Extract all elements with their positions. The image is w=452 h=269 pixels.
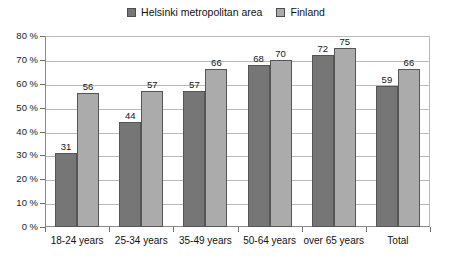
y-axis: 0 %10 %20 %30 %40 %50 %60 %70 %80 % [0, 36, 45, 228]
y-axis-tick-label: 10 % [16, 198, 38, 208]
x-axis-tick-label: Total [387, 235, 408, 247]
y-axis-tick-label: 50 % [16, 103, 38, 113]
y-axis-tick-label: 70 % [16, 55, 38, 65]
y-axis-tick-label: 40 % [16, 127, 38, 137]
legend-swatch-icon-series-0 [127, 8, 136, 17]
bar-group: 7275 [302, 36, 366, 227]
x-axis-tick-label: 35-49 years [179, 235, 232, 247]
bar-group: 4457 [109, 36, 173, 227]
legend-item-finland: Finland [276, 7, 324, 18]
x-axis-tick-mark [302, 227, 303, 232]
bar-0[interactable]: 72 [312, 55, 334, 227]
y-axis-tick-label: 60 % [16, 79, 38, 89]
bars-layer: 315644575766687072755966 [45, 36, 430, 227]
bar-chart: Helsinki metropolitan area Finland 0 %10… [0, 0, 452, 269]
bar-0[interactable]: 31 [55, 153, 77, 227]
chart-legend: Helsinki metropolitan area Finland [0, 2, 452, 22]
y-axis-tick-label: 0 % [22, 222, 38, 232]
x-axis-tick-mark [366, 227, 367, 232]
x-axis: 18-24 years25-34 years35-49 years50-64 y… [45, 227, 430, 257]
x-axis-tick-label: 18-24 years [51, 235, 104, 247]
bar-0[interactable]: 68 [248, 65, 270, 227]
legend-item-helsinki-metropolitan-area: Helsinki metropolitan area [127, 7, 262, 18]
bar-group: 3156 [45, 36, 109, 227]
x-axis-tick-label: 50-64 years [243, 235, 296, 247]
bar-group: 5966 [366, 36, 430, 227]
legend-swatch-icon-series-1 [276, 8, 285, 17]
x-axis-tick-label: over 65 years [303, 235, 364, 247]
bar-1[interactable]: 66 [205, 69, 227, 227]
bar-value-label: 75 [339, 37, 350, 47]
x-axis-tick-label: 25-34 years [115, 235, 168, 247]
bar-1[interactable]: 70 [270, 60, 292, 227]
x-axis-tick-mark [430, 227, 431, 232]
bar-1[interactable]: 66 [398, 69, 420, 227]
bar-value-label: 57 [147, 80, 158, 90]
bar-value-label: 57 [189, 80, 200, 90]
bar-value-label: 72 [317, 44, 328, 54]
bar-value-label: 59 [382, 75, 393, 85]
bar-value-label: 66 [211, 58, 222, 68]
bar-group: 5766 [173, 36, 237, 227]
x-axis-tick-mark [45, 227, 46, 232]
legend-label-series-1: Finland [290, 7, 324, 18]
bar-0[interactable]: 44 [119, 122, 141, 227]
y-axis-tick-label: 30 % [16, 150, 38, 160]
y-axis-tick-label: 80 % [16, 31, 38, 41]
x-axis-tick-mark [238, 227, 239, 232]
bar-value-label: 68 [253, 54, 264, 64]
bar-1[interactable]: 75 [334, 48, 356, 227]
y-axis-tick-label: 20 % [16, 174, 38, 184]
bar-value-label: 66 [404, 58, 415, 68]
x-axis-tick-mark [109, 227, 110, 232]
bar-value-label: 56 [83, 82, 94, 92]
bar-1[interactable]: 57 [141, 91, 163, 227]
bar-group: 6870 [238, 36, 302, 227]
legend-label-series-0: Helsinki metropolitan area [141, 7, 262, 18]
bar-value-label: 70 [275, 49, 286, 59]
bar-value-label: 44 [125, 111, 136, 121]
bar-0[interactable]: 57 [183, 91, 205, 227]
bar-value-label: 31 [61, 142, 72, 152]
x-axis-tick-mark [173, 227, 174, 232]
bar-0[interactable]: 59 [376, 86, 398, 227]
bar-1[interactable]: 56 [77, 93, 99, 227]
